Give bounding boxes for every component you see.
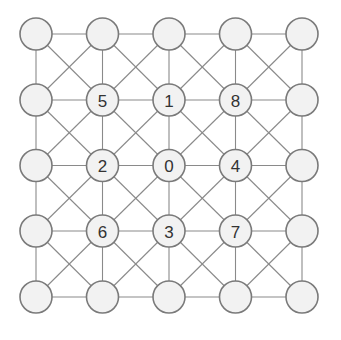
grid-node: [153, 18, 185, 50]
grid-node: 1: [153, 84, 185, 116]
node-label: 4: [231, 157, 240, 176]
node-circle: [286, 84, 318, 116]
node-label: 0: [164, 157, 173, 176]
grid-node: 7: [220, 215, 252, 247]
node-label: 3: [164, 223, 173, 242]
grid-node: [220, 281, 252, 313]
grid-node: [286, 84, 318, 116]
node-circle: [286, 281, 318, 313]
grid-graph-diagram: 518204637: [0, 0, 341, 340]
node-circle: [20, 18, 52, 50]
grid-node: [286, 150, 318, 182]
grid-node: 5: [87, 84, 119, 116]
grid-node: [20, 18, 52, 50]
node-label: 6: [98, 223, 107, 242]
node-label: 2: [98, 157, 107, 176]
node-circle: [87, 18, 119, 50]
grid-node: [87, 18, 119, 50]
node-circle: [286, 150, 318, 182]
grid-node: [220, 18, 252, 50]
grid-node: 0: [153, 150, 185, 182]
node-label: 1: [164, 92, 173, 111]
node-circle: [286, 215, 318, 247]
grid-node: [286, 18, 318, 50]
node-circle: [220, 18, 252, 50]
grid-node: [20, 150, 52, 182]
node-circle: [20, 215, 52, 247]
node-label: 5: [98, 92, 107, 111]
grid-node: [20, 84, 52, 116]
node-circle: [153, 18, 185, 50]
grid-node: [153, 281, 185, 313]
node-label: 8: [231, 92, 240, 111]
node-circle: [20, 84, 52, 116]
grid-node: 6: [87, 215, 119, 247]
node-circle: [153, 281, 185, 313]
node-circle: [20, 150, 52, 182]
grid-node: [20, 215, 52, 247]
grid-node: 3: [153, 215, 185, 247]
grid-node: 8: [220, 84, 252, 116]
grid-node: 2: [87, 150, 119, 182]
grid-node: [20, 281, 52, 313]
node-label: 7: [231, 223, 240, 242]
node-circle: [286, 18, 318, 50]
node-circle: [87, 281, 119, 313]
grid-node: [87, 281, 119, 313]
grid-node: [286, 281, 318, 313]
node-circle: [220, 281, 252, 313]
node-circle: [20, 281, 52, 313]
grid-node: 4: [220, 150, 252, 182]
grid-node: [286, 215, 318, 247]
